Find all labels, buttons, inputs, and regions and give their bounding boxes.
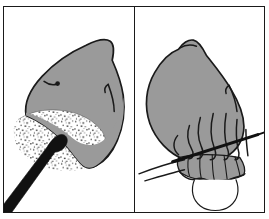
apex-notch-dot-left (55, 81, 60, 86)
figure-frame: Teardrop tissue mass with pointed superi… (3, 6, 265, 213)
figure-root: Two-panel surgical illustration Left pan… (0, 0, 269, 219)
panel-left: Teardrop tissue mass with pointed superi… (4, 7, 134, 212)
panel-left-artwork (4, 7, 134, 212)
panel-right: Same tissue mass rotated, now closed wit… (134, 7, 264, 212)
panel-right-artwork (135, 7, 264, 212)
needle-point-right (258, 133, 264, 135)
bulb-right (193, 180, 239, 211)
